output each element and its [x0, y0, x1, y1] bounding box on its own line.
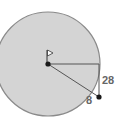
label-8: 8	[86, 94, 92, 106]
label-28: 28	[102, 74, 114, 86]
center-point	[45, 61, 50, 66]
circle-diagram: 28 8	[0, 0, 122, 122]
external-point	[96, 94, 101, 99]
